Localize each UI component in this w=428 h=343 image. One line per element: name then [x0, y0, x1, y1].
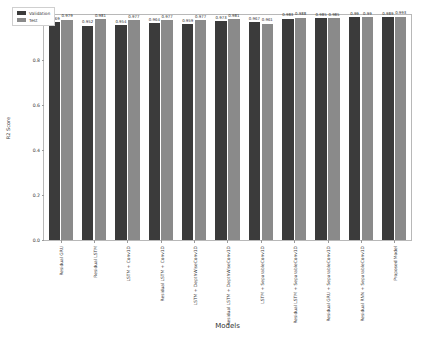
x-tick-label: Residual GRU + SeparableConv1D	[326, 246, 331, 322]
x-tick-mark	[61, 240, 62, 243]
legend-item-validation: Validation	[17, 11, 50, 16]
x-tick-label: Residual LSTM + DepthWiseConv1D	[226, 246, 231, 325]
y-tick-label: 0.4	[33, 148, 40, 153]
bar-test	[228, 19, 240, 240]
bar-value-label: 0.967	[249, 17, 260, 21]
y-tick-mark	[42, 240, 45, 241]
bar-validation	[49, 22, 61, 240]
legend-item-test: Test	[17, 18, 50, 23]
bar-value-label: 0.99	[350, 12, 359, 16]
x-tick-label: LSTM + SeparableConv1D	[259, 246, 264, 304]
bar-group: 0.9590.977	[177, 15, 210, 240]
bar-value-label: 0.977	[128, 15, 139, 19]
bar-value-label: 0.983	[282, 13, 293, 17]
legend-label-test: Test	[29, 18, 37, 23]
bar-validation	[149, 23, 161, 240]
x-tick-label: LSTM + DepthWiseConv1D	[192, 246, 197, 305]
bar-group: 0.9640.977	[144, 15, 177, 240]
bar-value-label: 0.99	[363, 12, 372, 16]
bar-group: 0.9850.985	[311, 15, 344, 240]
bar-validation	[315, 18, 327, 240]
bar-validation	[249, 22, 261, 240]
y-tick-label: 0.6	[33, 103, 40, 108]
bar-group: 0.9690.979	[44, 15, 77, 240]
bar-validation	[115, 25, 127, 240]
bar-test	[161, 20, 173, 240]
legend-swatch-test	[17, 18, 26, 21]
bar-validation	[382, 17, 394, 240]
x-tick-mark	[161, 240, 162, 243]
x-tick-mark	[127, 240, 128, 243]
bar-group: 0.9540.977	[111, 15, 144, 240]
bar-test	[362, 17, 374, 240]
bar-value-label: 0.973	[215, 16, 226, 20]
x-tick-label: Residual GRU	[59, 246, 64, 276]
bar-group: 0.9520.981	[77, 15, 110, 240]
bar-validation	[349, 17, 361, 240]
bar-value-label: 0.964	[149, 18, 160, 22]
bar-value-label: 0.952	[82, 20, 93, 24]
bar-value-label: 0.954	[115, 20, 126, 24]
x-tick-mark	[361, 240, 362, 243]
x-tick-mark	[194, 240, 195, 243]
bar-validation	[82, 26, 94, 240]
bar-value-label: 0.961	[262, 18, 273, 22]
x-tick-mark	[394, 240, 395, 243]
figure: R2 Score 0.00.20.40.60.81.00.9690.9790.9…	[0, 0, 428, 343]
bar-test	[61, 20, 73, 240]
legend-label-validation: Validation	[29, 11, 50, 16]
bar-test	[195, 20, 207, 240]
bar-test	[95, 19, 107, 240]
bar-value-label: 0.985	[316, 13, 327, 17]
bar-group: 0.9730.981	[211, 15, 244, 240]
x-tick-label: LSTM + Conv1D	[126, 246, 131, 281]
chart-legend: Validation Test	[12, 7, 55, 26]
x-tick-mark	[261, 240, 262, 243]
bar-value-label: 0.989	[382, 12, 393, 16]
x-tick-label: Residual LSTM	[92, 246, 97, 278]
y-tick-label: 0.2	[33, 193, 40, 198]
bar-group: 0.990.99	[344, 15, 377, 240]
bar-test	[328, 18, 340, 240]
bar-test	[262, 24, 274, 240]
y-tick-label: 0.8	[33, 58, 40, 63]
x-tick-mark	[328, 240, 329, 243]
bar-value-label: 0.981	[228, 14, 239, 18]
bar-value-label: 0.979	[62, 14, 73, 18]
bar-validation	[182, 24, 194, 240]
bar-value-label: 0.959	[182, 19, 193, 23]
bar-value-label: 0.985	[328, 13, 339, 17]
y-axis-label: R2 Score	[5, 117, 11, 139]
bar-group: 0.9670.961	[244, 15, 277, 240]
bar-validation	[215, 21, 227, 240]
plot-area: 0.00.20.40.60.81.00.9690.9790.9520.9810.…	[43, 14, 412, 241]
bar-test	[295, 18, 307, 240]
y-tick-label: 0.0	[33, 238, 40, 243]
x-tick-label: Residual LSTM + Conv1D	[159, 246, 164, 301]
x-tick-label: Residual RNN + SeparableConv1D	[359, 246, 364, 322]
bar-validation	[282, 19, 294, 240]
x-tick-mark	[94, 240, 95, 243]
bar-value-label: 0.977	[162, 15, 173, 19]
x-tick-label: Residual LSTM + SeparableConv1D	[293, 246, 298, 324]
bar-test	[395, 17, 407, 240]
bar-value-label: 0.993	[395, 11, 406, 15]
legend-swatch-validation	[17, 11, 26, 14]
bar-value-label: 0.977	[195, 15, 206, 19]
x-tick-label: Proposed Model	[393, 246, 398, 281]
bar-value-label: 0.981	[95, 14, 106, 18]
bar-group: 0.9830.988	[278, 15, 311, 240]
bar-test	[128, 20, 140, 240]
x-tick-mark	[294, 240, 295, 243]
bar-value-label: 0.988	[295, 12, 306, 16]
bar-group: 0.9890.993	[378, 15, 411, 240]
x-tick-mark	[227, 240, 228, 243]
